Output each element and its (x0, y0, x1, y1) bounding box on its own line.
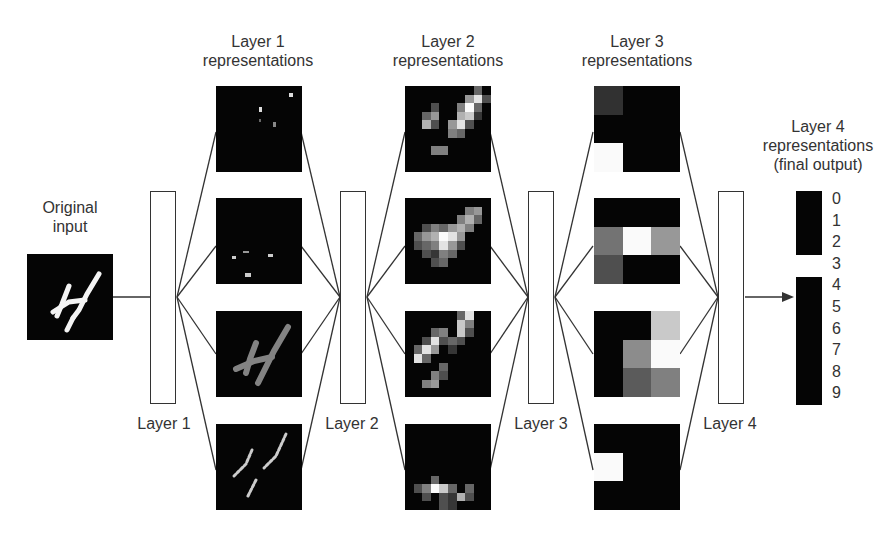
activation-cell (448, 345, 457, 354)
activation-cell (482, 232, 491, 241)
activation-cell (431, 467, 440, 476)
handwritten-digit-4-icon (27, 254, 113, 340)
activation-cell (448, 354, 457, 363)
activation-cell (422, 388, 431, 397)
activation-cell (623, 115, 652, 144)
activation-cell (465, 129, 474, 138)
activation-cell (457, 484, 466, 493)
activation-cell (482, 320, 491, 329)
activation-cell (474, 112, 483, 121)
activation-cell (405, 424, 414, 433)
activation-cell (414, 112, 423, 121)
output-cell (796, 341, 822, 362)
activation-cell (414, 129, 423, 138)
activation-cell (405, 241, 414, 250)
activation-cell (465, 320, 474, 329)
activation-cell (422, 163, 431, 172)
layer-3-map-1 (594, 86, 680, 172)
activation-cell (448, 198, 457, 207)
activation-cell (405, 311, 414, 320)
activation-cell (448, 337, 457, 346)
activation-cell (474, 354, 483, 363)
arrow-head-icon (782, 292, 794, 302)
activation-cell (439, 458, 448, 467)
activation-cell (405, 476, 414, 485)
output-cell (796, 234, 822, 255)
activation-cell (439, 424, 448, 433)
activation-cell (474, 320, 483, 329)
activation-cell (465, 146, 474, 155)
activation-cell (439, 328, 448, 337)
activation-cell (457, 476, 466, 485)
activation-cell (431, 493, 440, 502)
activation-cell (439, 103, 448, 112)
activation-cell (422, 198, 431, 207)
activation-cell (431, 424, 440, 433)
activation-cell (594, 368, 623, 397)
activation-cell (422, 232, 431, 241)
activation-cell (431, 207, 440, 216)
activation-cell (431, 458, 440, 467)
activation-cell (405, 371, 414, 380)
activation-cell (465, 86, 474, 95)
layer-3-map-4 (594, 424, 680, 510)
activation-cell (405, 120, 414, 129)
output-cell (796, 384, 822, 405)
activation-cell (439, 441, 448, 450)
activation-cell (651, 227, 680, 256)
activation-cell (448, 232, 457, 241)
activation-cell (651, 311, 680, 340)
activation-cell (431, 328, 440, 337)
activation-cell (405, 198, 414, 207)
activation-cell (465, 476, 474, 485)
activation-cell (457, 363, 466, 372)
activation-cell (439, 258, 448, 267)
activation-cell (405, 258, 414, 267)
activation-cell (594, 143, 623, 172)
activation-cell (405, 501, 414, 510)
activation-cell (439, 224, 448, 233)
activation-cell (405, 380, 414, 389)
activation-cell (422, 258, 431, 267)
activation-cell (422, 146, 431, 155)
class-label: 2 (832, 231, 841, 253)
activation-cell (474, 345, 483, 354)
activation-cell (465, 207, 474, 216)
activation-cell (414, 232, 423, 241)
activation-cell (405, 155, 414, 164)
activation-cell (482, 380, 491, 389)
activation-cell (448, 138, 457, 147)
activation-cell (439, 267, 448, 276)
activation-cell (465, 388, 474, 397)
activation-cell (405, 138, 414, 147)
activation-cell (439, 433, 448, 442)
activation-cell (457, 337, 466, 346)
activation-cell (439, 320, 448, 329)
activation-cell (431, 198, 440, 207)
activation-cell (457, 250, 466, 259)
layer-3-label: Layer 3 (511, 414, 571, 433)
activation-cell (474, 371, 483, 380)
layer-4-box (718, 191, 744, 404)
activation-cell (482, 337, 491, 346)
activation-cell (422, 458, 431, 467)
activation-cell (623, 255, 652, 284)
activation-cell (474, 441, 483, 450)
activation-cell (482, 155, 491, 164)
activation-cell (414, 467, 423, 476)
activation-cell (457, 138, 466, 147)
activation-cell (623, 368, 652, 397)
activation-cell (482, 224, 491, 233)
activation-cell (457, 198, 466, 207)
layer-1-map-2 (216, 198, 302, 284)
activation-cell (457, 258, 466, 267)
activation-cell (405, 458, 414, 467)
activation-cell (474, 328, 483, 337)
activation-cell (594, 453, 623, 482)
activation-cell (482, 86, 491, 95)
activation-cell (405, 388, 414, 397)
activation-cell (448, 215, 457, 224)
activation-cell (623, 340, 652, 369)
activation-cell (431, 484, 440, 493)
activation-cell (474, 86, 483, 95)
